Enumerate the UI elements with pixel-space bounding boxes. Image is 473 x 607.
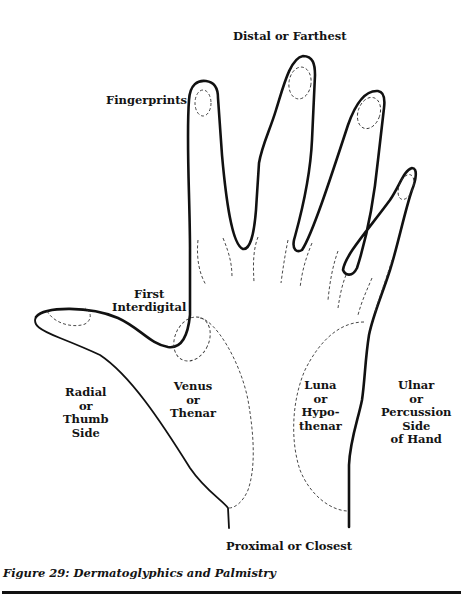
label-radial: Radial or Thumb Side [63,386,109,440]
label-line: Percussion [381,406,451,420]
label-line: of Hand [381,433,451,447]
hand-diagram [0,0,473,607]
crease-2 [223,238,232,278]
label-luna: Luna or Hypo- thenar [299,379,342,433]
label-line: or [63,400,109,414]
label-line: Side [381,420,451,434]
label-ulnar: Ulnar or Percussion Side of Hand [381,379,451,447]
label-line: Side [63,427,109,441]
label-proximal: Proximal or Closest [226,540,352,554]
figure-caption: Figure 29: Dermatoglyphics and Palmistry [3,566,276,580]
label-fingerprints: Fingerprints [106,94,187,108]
label-line: or [381,393,451,407]
fingerprint-ring [354,94,385,131]
label-line: Thumb [63,413,109,427]
crease-6 [328,251,338,300]
label-line: Luna [299,379,342,393]
caption-divider [2,591,461,594]
label-line: or [170,394,216,408]
label-line: Thenar [170,407,216,421]
fingerprint-middle [287,66,313,101]
fingerprint-index [195,90,211,116]
hand-outline [36,56,416,527]
crease-1 [197,240,206,285]
label-first-interdigital: First Interdigital [112,288,186,314]
first-interdigital-oval [167,311,217,367]
label-line: thenar [299,420,342,434]
label-line: Radial [63,386,109,400]
label-venus: Venus or Thenar [170,380,216,421]
crease-7 [338,275,346,308]
label-line: Ulnar [381,379,451,393]
crease-8 [358,278,372,315]
label-line: Venus [170,380,216,394]
label-line: Interdigital [112,301,186,314]
label-distal: Distal or Farthest [233,30,347,44]
label-line: Hypo- [299,406,342,420]
crease-4 [281,240,288,283]
label-line: or [299,393,342,407]
crease-3 [253,237,258,282]
